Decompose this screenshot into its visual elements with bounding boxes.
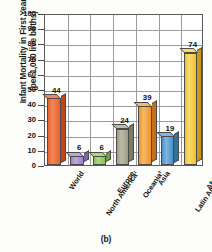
y-axis-tick-label: 70: [2, 56, 36, 64]
bar[interactable]: [93, 156, 107, 165]
y-axis-title: Infant Mortality in First Year (per 1,00…: [15, 0, 41, 131]
bar-value-label: 24: [114, 117, 136, 125]
bar[interactable]: [161, 136, 175, 165]
bar[interactable]: [138, 106, 152, 165]
bar-side-face: [197, 47, 202, 162]
figure-caption: (b): [0, 234, 212, 244]
bar-value-label: 6: [91, 144, 113, 152]
plot-area: [44, 14, 203, 166]
x-axis-label-line: World: [68, 170, 86, 191]
bar-value-label: 74: [182, 41, 204, 49]
bar[interactable]: [70, 156, 84, 165]
bar-front-face: [116, 129, 130, 165]
y-axis-tick-label: 40: [2, 101, 36, 109]
bar[interactable]: [116, 129, 130, 165]
y-axis-tick-label: 50: [2, 86, 36, 94]
y-axis-tick-label: 0: [2, 162, 36, 170]
bar-front-face: [47, 98, 61, 165]
y-axis-tick-label: 60: [2, 71, 36, 79]
gridline-vertical: [90, 15, 91, 165]
bar-front-face: [70, 156, 84, 165]
figure-panel: Infant Mortality in First Year (per 1,00…: [0, 0, 212, 252]
bar-side-face: [129, 123, 134, 162]
bar[interactable]: [184, 53, 198, 165]
gridline-vertical: [159, 15, 160, 165]
y-axis-tick-label: 90: [2, 25, 36, 33]
bar-value-label: 19: [159, 125, 181, 133]
bar-front-face: [161, 136, 175, 165]
y-axis-tick-label: 10: [2, 147, 36, 155]
y-axis-tick: [38, 166, 44, 167]
y-axis-tick-label: 20: [2, 132, 36, 140]
x-axis-label: World: [68, 170, 86, 191]
bar-value-label: 39: [136, 94, 158, 102]
y-axis-title-line-2: (per 1,000 live births): [28, 11, 38, 91]
y-axis-tick-label: 30: [2, 116, 36, 124]
gridline-vertical: [68, 15, 69, 165]
y-axis-tick-label: 100: [2, 10, 36, 18]
bar-value-label: 6: [68, 144, 90, 152]
bar-front-face: [93, 156, 107, 165]
gridline-vertical: [136, 15, 137, 165]
bar-value-label: 44: [45, 87, 67, 95]
gridline-vertical: [113, 15, 114, 165]
y-axis-tick-label: 80: [2, 40, 36, 48]
bar[interactable]: [47, 98, 61, 165]
bar-front-face: [138, 106, 152, 165]
bar-side-face: [174, 131, 179, 163]
bar-front-face: [184, 53, 198, 165]
gridline-vertical: [181, 15, 182, 165]
